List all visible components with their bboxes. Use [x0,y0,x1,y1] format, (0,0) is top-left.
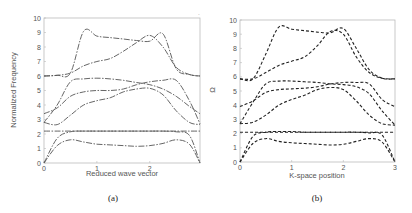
series-line-band-6 [240,81,395,125]
series-line-band-2 [240,131,395,162]
y-tick-label: 6 [37,73,41,80]
x-tick-label: 1 [290,164,294,171]
y-tick-label: 10 [229,17,237,24]
series-line-band-1 [44,140,200,163]
plot-frame-b [240,20,395,162]
y-tick-label: 9 [233,31,237,38]
y-tick-label: 4 [233,102,237,109]
y-tick-label: 2 [37,131,41,138]
corner-mark-a: - [198,11,200,16]
series-line-band-8 [44,29,200,77]
panel-b: 012345678910 0123 K-space position Ω (b) [208,17,397,204]
y-tick-label: 9 [37,29,41,36]
y-tick-label: 7 [37,58,41,65]
y-tick-label: 0 [233,159,237,166]
y-tick-label: 10 [33,15,41,22]
series-line-band-1 [240,139,395,162]
series-line-band-2 [44,131,200,163]
x-axis-label-a: Reduced wave vector [86,169,159,178]
y-tick-label: 5 [37,87,41,94]
y-tick-label: 7 [233,59,237,66]
x-tick-label: 0 [42,165,46,172]
panel-a: 012345678910 012 Reduced wave vector Nor… [9,11,200,203]
series-line-band-8 [240,26,395,81]
y-tick-label: 8 [37,44,41,51]
y-tick-label: 3 [233,116,237,123]
x-axis-label-b: K-space position [289,171,344,180]
y-tick-label: 2 [233,130,237,137]
x-tick-label: 2 [341,164,345,171]
series-line-band-6 [44,78,200,122]
y-tick-label: 6 [233,73,237,80]
y-tick-label: 5 [233,88,237,95]
figure: 012345678910 012 Reduced wave vector Nor… [0,0,412,213]
y-axis-label-a: Normalized Frequency [9,52,18,128]
series-lines-a [44,29,200,163]
y-tick-label: 3 [37,116,41,123]
caption-a: (a) [108,193,118,203]
plot-frame-a [44,18,200,163]
x-tick-label: 3 [393,164,397,171]
y-tick-label: 0 [37,160,41,167]
series-line-band-5 [240,82,395,106]
y-axis-label-b: Ω [208,87,217,93]
y-tick-label: 1 [37,145,41,152]
caption-b: (b) [312,193,323,203]
y-tick-label: 1 [233,144,237,151]
series-line-band-4 [44,88,200,125]
series-lines-b [240,26,395,162]
y-tick-label: 4 [37,102,41,109]
y-tick-label: 8 [233,45,237,52]
x-tick-label: 0 [238,164,242,171]
